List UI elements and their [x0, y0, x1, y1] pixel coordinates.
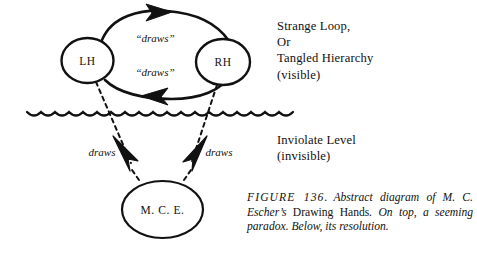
- annotation-lower-level: Inviolate Level (invisible): [277, 132, 356, 164]
- figure-136-container: LH RH “draws” “draws” M. C. E. draws dra…: [0, 0, 477, 258]
- figure-caption-work-title: Drawing Hands: [293, 206, 369, 219]
- annotation-upper-level: Strange Loop, Or Tangled Hierarchy (visi…: [277, 18, 373, 83]
- node-lh-label: LH: [79, 55, 96, 67]
- dashed-tail-mce-right: [184, 170, 191, 180]
- node-rh-label: RH: [214, 56, 231, 68]
- edge-label-top-draws: “draws”: [135, 32, 174, 44]
- figure-caption-number: FIGURE 136.: [247, 191, 333, 204]
- figure-caption: FIGURE 136.Abstract diagram of M. C. Esc…: [247, 191, 473, 235]
- arrowhead-mce-to-rh: [183, 136, 207, 171]
- dashed-tail-mce-left: [132, 170, 139, 180]
- arrowhead-lh-to-rh: [146, 4, 172, 21]
- edge-label-bottom-draws: “draws”: [135, 66, 174, 78]
- edge-label-right-draws: draws: [206, 146, 233, 158]
- arrowhead-mce-to-lh: [113, 136, 138, 171]
- inviolate-level-wavy-line: [27, 112, 293, 116]
- arrowhead-rh-to-lh: [141, 88, 168, 105]
- edge-label-left-draws: draws: [89, 146, 116, 158]
- node-mce-label: M. C. E.: [140, 204, 184, 216]
